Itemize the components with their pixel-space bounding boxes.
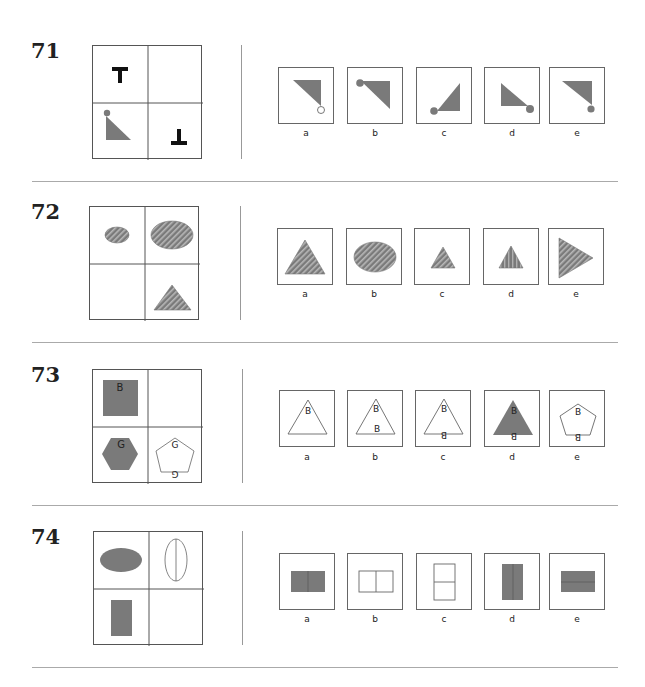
option-label: d — [484, 614, 540, 624]
option-71-b[interactable] — [347, 67, 403, 124]
vertical-divider — [240, 206, 241, 320]
vertical-divider — [242, 531, 243, 645]
option-label: d — [484, 128, 540, 138]
svg-text:B: B — [373, 404, 379, 414]
section-separator — [32, 181, 618, 182]
option-label: b — [347, 128, 403, 138]
triangle-circle-icon — [104, 110, 131, 140]
option-label: c — [415, 452, 471, 462]
question-number: 71 — [31, 38, 60, 63]
question-74-matrix — [93, 531, 203, 645]
svg-text:B: B — [575, 407, 581, 417]
option-73-a[interactable]: B — [279, 390, 335, 447]
question-73-matrix: B G G G — [92, 369, 202, 483]
option-73-b[interactable]: B B — [347, 390, 403, 447]
option-74-d[interactable] — [484, 553, 540, 610]
svg-text:B: B — [511, 431, 517, 441]
svg-text:B: B — [441, 430, 447, 440]
svg-text:G: G — [171, 469, 178, 479]
question-number: 72 — [31, 199, 60, 224]
option-71-d[interactable] — [484, 67, 540, 124]
option-label: e — [549, 614, 605, 624]
vertical-divider — [241, 45, 242, 159]
option-label: a — [279, 452, 335, 462]
svg-text:B: B — [117, 382, 124, 393]
option-label: e — [549, 452, 605, 462]
svg-text:B: B — [374, 424, 380, 434]
option-74-a[interactable] — [279, 553, 335, 610]
large-triangle-icon — [154, 285, 191, 310]
option-71-a[interactable] — [278, 67, 334, 124]
ellipse-with-line-icon — [165, 539, 187, 581]
vertical-divider — [242, 369, 243, 483]
option-label: d — [483, 289, 539, 299]
option-72-d[interactable] — [483, 228, 539, 285]
option-label: d — [484, 452, 540, 462]
question-71-matrix — [92, 45, 202, 159]
option-72-e[interactable] — [548, 228, 604, 285]
svg-text:B: B — [441, 404, 447, 414]
option-label: c — [416, 614, 472, 624]
option-74-e[interactable] — [549, 553, 605, 610]
option-74-c[interactable] — [416, 553, 472, 610]
option-label: c — [416, 128, 472, 138]
option-label: b — [347, 452, 403, 462]
large-ellipse-icon — [151, 221, 193, 249]
section-separator — [32, 505, 618, 506]
letter-t-inverted-icon — [171, 129, 187, 145]
option-73-e[interactable]: B B — [549, 390, 605, 447]
option-71-c[interactable] — [416, 67, 472, 124]
svg-text:G: G — [117, 439, 125, 450]
option-72-b[interactable] — [346, 228, 402, 285]
option-label: b — [346, 289, 402, 299]
option-label: a — [278, 128, 334, 138]
section-separator — [32, 667, 618, 668]
small-ellipse-icon — [105, 227, 129, 243]
option-74-b[interactable] — [347, 553, 403, 610]
section-separator — [32, 342, 618, 343]
svg-text:B: B — [305, 406, 311, 416]
question-number: 74 — [31, 524, 60, 549]
option-label: e — [549, 128, 605, 138]
option-label: b — [347, 614, 403, 624]
letter-t-icon — [112, 67, 128, 83]
question-number: 73 — [31, 362, 60, 387]
option-label: c — [414, 289, 470, 299]
svg-text:G: G — [172, 440, 179, 450]
option-72-c[interactable] — [414, 228, 470, 285]
option-72-a[interactable] — [277, 228, 333, 285]
option-label: e — [548, 289, 604, 299]
option-73-d[interactable]: B B — [484, 390, 540, 447]
option-label: a — [279, 614, 335, 624]
gray-rectangle-icon — [111, 600, 132, 636]
option-73-c[interactable]: B B — [415, 390, 471, 447]
option-label: a — [277, 289, 333, 299]
svg-text:B: B — [575, 432, 581, 442]
option-71-e[interactable] — [549, 67, 605, 124]
gray-ellipse-icon — [100, 548, 142, 572]
question-72-matrix — [89, 206, 199, 320]
svg-text:B: B — [511, 406, 517, 416]
